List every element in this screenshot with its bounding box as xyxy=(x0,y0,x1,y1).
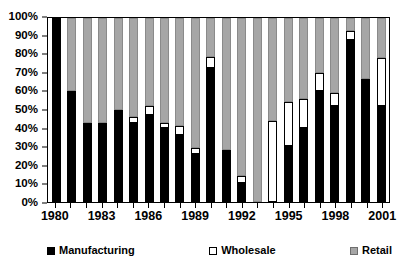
x-tick-mark xyxy=(289,203,290,208)
x-tick-label: 2001 xyxy=(368,210,396,223)
wholesale-swatch xyxy=(209,247,217,255)
x-tick-label: 1980 xyxy=(41,210,69,223)
manufacturing-swatch xyxy=(47,247,55,255)
x-tick-mark xyxy=(273,203,274,208)
bar-segment-retail xyxy=(67,18,76,91)
bar-segment-manufacturing xyxy=(145,115,154,201)
bar xyxy=(299,18,308,202)
x-tick-mark xyxy=(164,203,165,208)
bar-segment-wholesale xyxy=(237,176,246,183)
bar-segment-retail xyxy=(98,18,107,123)
bar-segment-retail xyxy=(268,18,277,121)
bar-segment-retail xyxy=(160,18,169,123)
bar-segment-retail xyxy=(191,18,200,148)
bar-segment-manufacturing xyxy=(315,91,324,201)
bar xyxy=(145,18,154,202)
bar xyxy=(237,18,246,202)
bar-segment-manufacturing xyxy=(361,79,370,202)
bar-segment-manufacturing xyxy=(299,128,308,201)
x-tick-mark xyxy=(133,203,134,208)
y-tick-label: 40% xyxy=(15,123,38,135)
bar-segment-manufacturing xyxy=(346,40,355,201)
y-tick-label: 30% xyxy=(15,141,38,153)
x-tick-mark xyxy=(55,203,56,208)
bar-segment-manufacturing xyxy=(160,128,169,201)
bar-segment-wholesale xyxy=(346,31,355,40)
y-tick-label: 50% xyxy=(15,104,38,116)
x-tick-mark xyxy=(226,203,227,208)
bar-segment-retail xyxy=(377,18,386,58)
y-tick-label: 10% xyxy=(15,179,38,191)
x-tick-mark xyxy=(180,203,181,208)
bar-segment-retail xyxy=(299,18,308,99)
bar xyxy=(52,18,61,202)
plot-area xyxy=(47,17,390,203)
x-tick-label: 1983 xyxy=(88,210,116,223)
bar-group xyxy=(49,18,390,202)
bar-segment-wholesale xyxy=(315,73,324,91)
x-axis-labels: 19801983198619891992199519982001 xyxy=(47,210,390,228)
x-tick-mark xyxy=(242,203,243,208)
x-tick-mark xyxy=(102,203,103,208)
bar-segment-manufacturing xyxy=(330,106,339,201)
x-tick-label: 1998 xyxy=(322,210,350,223)
x-tick-mark xyxy=(148,203,149,208)
bar-segment-retail xyxy=(253,18,262,202)
bar xyxy=(361,18,370,202)
chart-legend: ManufacturingWholesaleRetail xyxy=(47,245,392,256)
x-tick-mark xyxy=(195,203,196,208)
bar-segment-retail xyxy=(206,18,215,57)
x-tick-mark xyxy=(382,203,383,208)
retail-swatch xyxy=(350,247,358,255)
bar xyxy=(330,18,339,202)
bar xyxy=(253,18,262,202)
y-tick-label: 70% xyxy=(15,67,38,79)
bar-segment-retail xyxy=(114,18,123,110)
bar xyxy=(160,18,169,202)
bar-segment-retail xyxy=(145,18,154,106)
bar-segment-manufacturing xyxy=(129,123,138,202)
bar xyxy=(315,18,324,202)
x-tick-label: 1986 xyxy=(134,210,162,223)
x-tick-mark xyxy=(257,203,258,208)
bar-segment-wholesale xyxy=(175,126,184,135)
bar xyxy=(67,18,76,202)
bar xyxy=(222,18,231,202)
stacked-bar-chart: 0%10%20%30%40%50%60%70%80%90%100% 198019… xyxy=(0,0,405,277)
x-tick-label: 1992 xyxy=(228,210,256,223)
legend-item: Manufacturing xyxy=(47,245,135,256)
bar xyxy=(175,18,184,202)
bar-segment-manufacturing xyxy=(83,123,92,202)
bar-segment-manufacturing xyxy=(206,68,215,202)
legend-label: Manufacturing xyxy=(59,245,135,256)
x-tick-mark xyxy=(367,203,368,208)
legend-item: Retail xyxy=(350,245,392,256)
bar xyxy=(83,18,92,202)
legend-label: Retail xyxy=(362,245,392,256)
x-tick-label: 1989 xyxy=(181,210,209,223)
bar xyxy=(346,18,355,202)
x-tick-mark xyxy=(351,203,352,208)
bar-segment-manufacturing xyxy=(175,135,184,201)
y-tick-label: 20% xyxy=(15,160,38,172)
bar-segment-retail xyxy=(83,18,92,123)
bar-segment-retail xyxy=(129,18,138,117)
x-tick-mark xyxy=(335,203,336,208)
y-axis: 0%10%20%30%40%50%60%70%80%90%100% xyxy=(0,17,47,203)
bar xyxy=(129,18,138,202)
y-tick-label: 80% xyxy=(15,48,38,60)
x-tick-mark xyxy=(70,203,71,208)
bar-segment-wholesale xyxy=(284,102,293,146)
bar-segment-manufacturing xyxy=(237,183,246,201)
x-tick-mark xyxy=(320,203,321,208)
bar-segment-manufacturing xyxy=(222,150,231,201)
bar-segment-retail xyxy=(315,18,324,73)
legend-item: Wholesale xyxy=(209,245,275,256)
bar-segment-wholesale xyxy=(299,99,308,128)
bar-segment-retail xyxy=(222,18,231,150)
x-tick-mark xyxy=(117,203,118,208)
bar-segment-retail xyxy=(175,18,184,126)
y-tick-label: 60% xyxy=(15,86,38,98)
bar xyxy=(268,18,277,202)
y-tick-label: 100% xyxy=(9,11,38,23)
